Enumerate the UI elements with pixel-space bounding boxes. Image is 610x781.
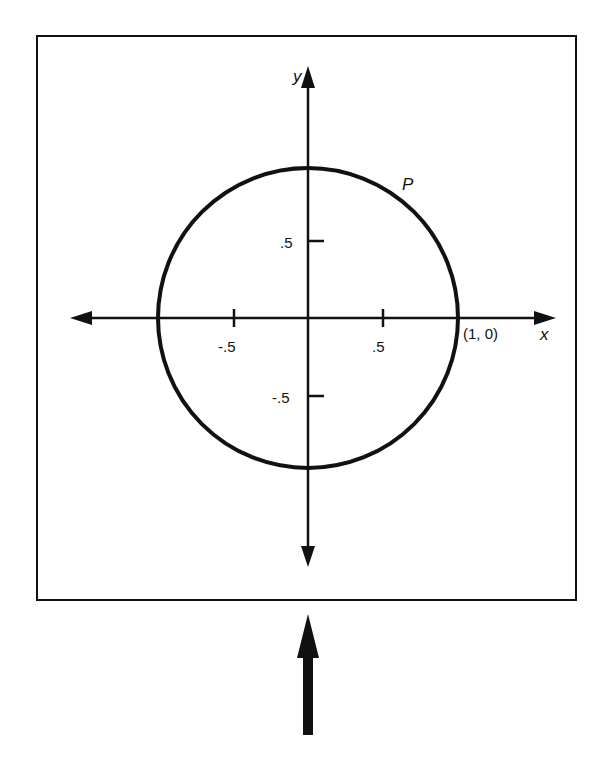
point-p-label: P [402,175,414,194]
y-axis [301,66,324,567]
x-axis-left-arrow-icon [70,311,92,325]
y-tick-pos-label: .5 [280,234,293,251]
x-axis-label: x [539,325,549,344]
y-axis-label: y [292,67,303,86]
x-tick-pos-label: .5 [372,338,385,355]
y-axis-down-arrow-icon [301,546,315,567]
pointer-arrow-icon [297,614,319,735]
x-tick-neg-label: -.5 [218,338,236,355]
x-axis-right-arrow-icon [534,311,556,325]
unit-circle-diagram: y x P (1, 0) -.5 .5 .5 -.5 [0,0,610,781]
start-point-label: (1, 0) [463,325,498,342]
y-axis-up-arrow-icon [301,66,315,88]
y-tick-neg-label: -.5 [272,389,290,406]
